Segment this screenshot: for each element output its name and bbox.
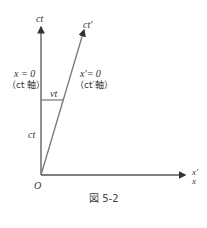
- x-axis-label: x: [192, 177, 196, 186]
- ct-prime-axis-caption: （ct′軸）: [75, 81, 113, 90]
- figure-caption: 図 5-2: [89, 194, 119, 204]
- ct-axis-label: ct: [36, 14, 43, 24]
- ct-prime-axis-label: ct′: [83, 20, 92, 30]
- x-zero-label: x = 0: [14, 69, 35, 79]
- ct-prime-axis: [41, 30, 84, 175]
- vt-label: vt: [50, 89, 57, 99]
- ct-height-label: ct: [28, 130, 35, 140]
- x-prime-zero-label: x′= 0: [80, 69, 101, 79]
- ct-axis-caption: （ct 軸）: [7, 81, 45, 90]
- origin-label: O: [34, 181, 41, 191]
